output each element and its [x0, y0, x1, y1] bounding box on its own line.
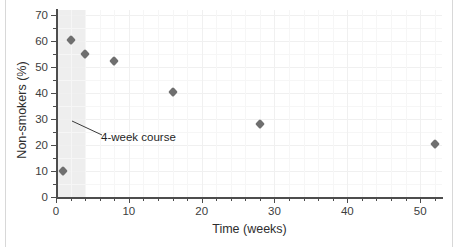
- gridline-vertical-minor: [333, 10, 334, 197]
- y-tick-minor: [53, 28, 56, 29]
- x-tick-label: 40: [341, 205, 354, 217]
- y-tick: [51, 171, 56, 172]
- gridline-vertical-minor: [100, 10, 101, 197]
- annotation-4-week-course: 4-week course: [101, 131, 176, 143]
- x-tick-minor: [260, 198, 261, 201]
- y-tick-label: 70: [22, 9, 48, 21]
- x-tick-minor: [376, 198, 377, 201]
- x-tick-minor: [435, 198, 436, 201]
- x-tick-minor: [158, 198, 159, 201]
- y-tick: [51, 145, 56, 146]
- x-tick-minor: [71, 198, 72, 201]
- y-tick-label: 0: [22, 191, 48, 203]
- x-tick-minor: [143, 198, 144, 201]
- x-tick: [420, 198, 421, 203]
- x-tick-minor: [85, 198, 86, 201]
- x-tick-minor: [216, 198, 217, 201]
- gridline-vertical-minor: [173, 10, 174, 197]
- x-tick-label: 0: [53, 205, 59, 217]
- x-tick-minor: [304, 198, 305, 201]
- gridline-vertical-minor: [85, 10, 86, 197]
- x-tick-label: 10: [122, 205, 135, 217]
- x-tick-minor: [333, 198, 334, 201]
- gridline-vertical: [274, 10, 275, 197]
- gridline-vertical-minor: [231, 10, 232, 197]
- gridline-vertical-minor: [114, 10, 115, 197]
- gridline-vertical-minor: [260, 10, 261, 197]
- gridline-vertical: [202, 10, 203, 197]
- x-tick-minor: [245, 198, 246, 201]
- x-tick-minor: [187, 198, 188, 201]
- y-tick-minor: [53, 184, 56, 185]
- x-tick: [347, 198, 348, 203]
- x-tick-minor: [100, 198, 101, 201]
- gridline-vertical-minor: [435, 10, 436, 197]
- figure-canvas: 01020304050 010203040506070 Time (weeks)…: [0, 0, 459, 247]
- x-tick-minor: [231, 198, 232, 201]
- x-tick-label: 50: [414, 205, 427, 217]
- figure-left-rule: [5, 0, 6, 247]
- gridline-vertical: [129, 10, 130, 197]
- y-tick-minor: [53, 106, 56, 107]
- gridline-vertical-minor: [406, 10, 407, 197]
- x-tick: [274, 198, 275, 203]
- x-tick-minor: [391, 198, 392, 201]
- gridline-vertical-minor: [376, 10, 377, 197]
- x-axis-title: Time (weeks): [56, 222, 443, 236]
- x-tick-minor: [289, 198, 290, 201]
- y-tick: [51, 93, 56, 94]
- y-tick: [51, 15, 56, 16]
- y-axis-title: Non-smokers (%): [15, 45, 29, 175]
- gridline-vertical-minor: [216, 10, 217, 197]
- y-tick-minor: [53, 54, 56, 55]
- plot-area: [56, 10, 442, 197]
- y-tick-minor: [53, 132, 56, 133]
- x-tick-minor: [406, 198, 407, 201]
- x-tick-label: 20: [195, 205, 208, 217]
- x-tick: [56, 198, 57, 203]
- annotation-leader-line: [72, 121, 102, 135]
- y-tick-minor: [53, 80, 56, 81]
- x-tick: [129, 198, 130, 203]
- y-tick-minor: [53, 158, 56, 159]
- gridline-vertical-minor: [187, 10, 188, 197]
- gridline-vertical-minor: [143, 10, 144, 197]
- x-tick-minor: [318, 198, 319, 201]
- gridline-vertical-minor: [362, 10, 363, 197]
- x-tick-minor: [114, 198, 115, 201]
- gridline-vertical-minor: [289, 10, 290, 197]
- y-tick: [51, 41, 56, 42]
- figure-right-rule: [452, 0, 453, 247]
- x-tick-minor: [173, 198, 174, 201]
- y-tick: [51, 119, 56, 120]
- y-axis-line: [56, 9, 58, 198]
- gridline-vertical-minor: [304, 10, 305, 197]
- gridline-vertical-minor: [391, 10, 392, 197]
- x-tick-minor: [362, 198, 363, 201]
- y-tick: [51, 67, 56, 68]
- gridline-vertical: [420, 10, 421, 197]
- gridline-vertical-minor: [245, 10, 246, 197]
- gridline-vertical-minor: [158, 10, 159, 197]
- x-tick: [202, 198, 203, 203]
- gridline-vertical-minor: [318, 10, 319, 197]
- y-tick: [51, 197, 56, 198]
- gridline-vertical: [347, 10, 348, 197]
- x-tick-label: 30: [268, 205, 281, 217]
